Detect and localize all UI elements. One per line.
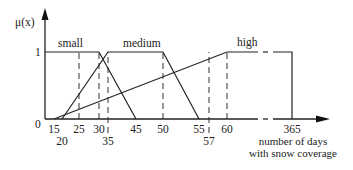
labels: smallmediumhighμ(x)101520253035455055576…	[15, 16, 337, 159]
x-tick-label: 20	[56, 135, 68, 147]
membership-series	[45, 52, 292, 119]
dashed-guides	[79, 52, 227, 133]
series-label-small: small	[58, 37, 83, 49]
series-high-end	[273, 52, 292, 119]
series-label-high: high	[237, 36, 258, 49]
x-tick-label: 57	[203, 135, 215, 147]
x-tick-label: 30	[93, 123, 105, 135]
axes	[42, 8, 331, 123]
x-tick-label: 25	[73, 123, 85, 135]
x-axis-label: number of days	[259, 135, 327, 147]
x-tick-label: 45	[130, 123, 142, 135]
y-tick-label: 1	[35, 46, 41, 58]
x-tick-label: 365	[283, 123, 301, 135]
x-tick-label: 15	[48, 123, 60, 135]
x-axis-label: with snow coverage	[249, 147, 337, 159]
x-tick-label: 50	[157, 123, 169, 135]
y-axis-label: μ(x)	[15, 16, 35, 29]
x-tick-label: 35	[102, 135, 114, 147]
x-tick-label: 60	[221, 123, 233, 135]
origin-label: 0	[35, 118, 41, 130]
x-tick-label: 55	[193, 123, 205, 135]
x-axis-arrow-icon	[316, 116, 330, 123]
series-label-medium: medium	[123, 37, 161, 49]
series-small	[45, 52, 136, 119]
fuzzy-membership-chart: smallmediumhighμ(x)101520253035455055576…	[0, 0, 353, 170]
y-axis-arrow-icon	[42, 8, 49, 20]
